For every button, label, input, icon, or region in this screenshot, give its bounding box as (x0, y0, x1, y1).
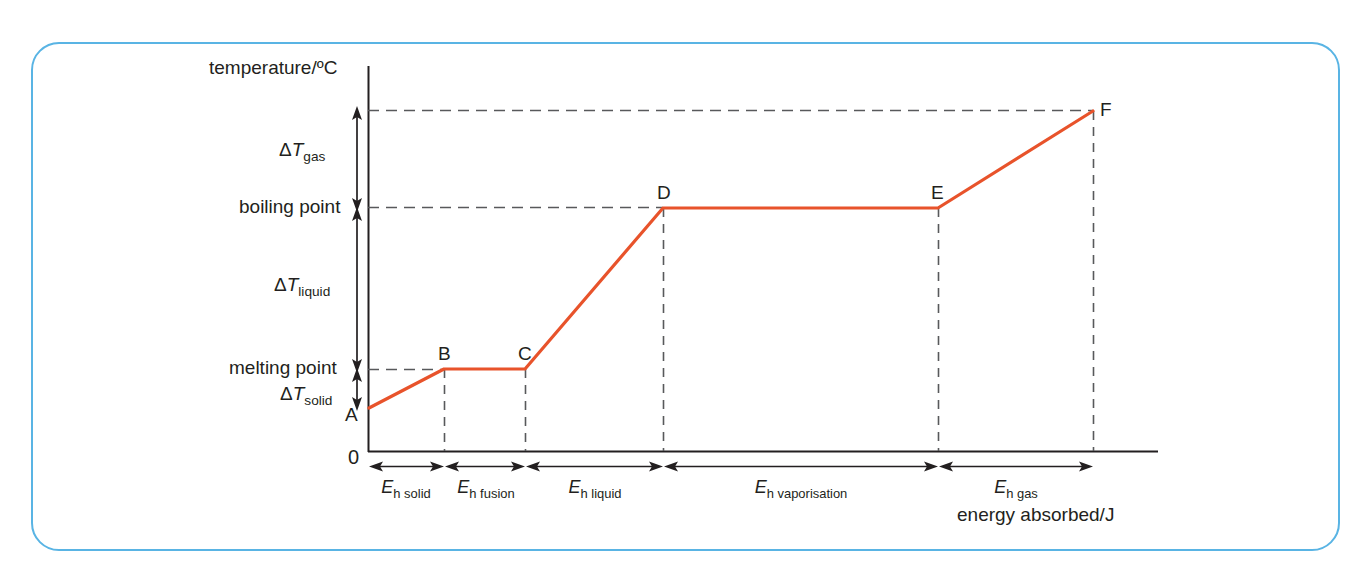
t-symbol-solid: T (293, 383, 305, 404)
point-label-D: D (657, 182, 671, 204)
point-label-E: E (931, 182, 944, 204)
e-symbol-vaporisation: E (755, 477, 767, 497)
point-label-B: B (438, 343, 451, 365)
segment-subscript-fusion: h fusion (469, 486, 514, 501)
boiling-point-label: boiling point (239, 196, 340, 218)
delta-t-liquid-subscript: liquid (298, 284, 330, 299)
e-symbol-liquid: E (568, 477, 580, 497)
segment-arrow-solid (369, 462, 444, 472)
heating-curve-line (369, 111, 1093, 408)
segment-arrow-gas (939, 462, 1093, 472)
e-symbol-fusion: E (457, 477, 469, 497)
segment-subscript-solid: h solid (393, 486, 430, 501)
heating-curve-chart (0, 0, 1367, 572)
delta-symbol-solid: Δ (280, 383, 293, 404)
origin-label: 0 (348, 446, 359, 469)
point-label-F: F (1100, 99, 1112, 121)
point-label-A: A (345, 404, 358, 426)
delta-t-liquid-arrow (352, 207, 362, 373)
e-symbol-gas: E (994, 477, 1006, 497)
segment-label-liquid: Eh liquid (568, 477, 621, 501)
segment-arrow-vaporisation (664, 462, 938, 472)
y-axis-title: temperature/ºC (209, 57, 337, 79)
segment-label-solid: Eh solid (381, 477, 430, 501)
e-symbol-solid: E (381, 477, 393, 497)
delta-symbol-gas: Δ (279, 139, 292, 160)
melting-point-label: melting point (229, 357, 337, 379)
delta-t-gas-arrow (352, 106, 362, 212)
delta-t-solid-subscript: solid (304, 393, 332, 408)
delta-t-liquid-label: ΔTliquid (274, 274, 330, 299)
delta-t-solid-label: ΔTsolid (280, 383, 332, 408)
delta-t-gas-subscript: gas (303, 149, 325, 164)
segment-label-gas: Eh gas (994, 477, 1038, 501)
t-symbol-gas: T (292, 139, 304, 160)
segment-arrow-fusion (445, 462, 525, 472)
segment-subscript-liquid: h liquid (580, 486, 621, 501)
segment-arrow-liquid (526, 462, 663, 472)
segment-subscript-vaporisation: h vaporisation (767, 486, 848, 501)
t-symbol-liquid: T (287, 274, 299, 295)
segment-label-fusion: Eh fusion (457, 477, 514, 501)
delta-t-gas-label: ΔTgas (279, 139, 325, 164)
segment-subscript-gas: h gas (1006, 486, 1038, 501)
figure-page: temperature/ºC energy absorbed/J 0 boili… (0, 0, 1367, 572)
delta-symbol-liquid: Δ (274, 274, 287, 295)
point-label-C: C (518, 343, 532, 365)
x-axis-title: energy absorbed/J (957, 504, 1114, 526)
segment-label-vaporisation: Eh vaporisation (755, 477, 848, 501)
